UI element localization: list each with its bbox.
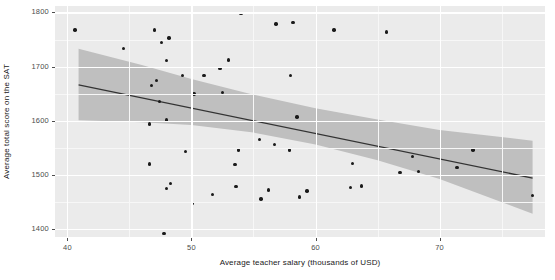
data-point [160, 41, 163, 44]
y-tick-mark [52, 67, 55, 68]
data-point [259, 197, 262, 200]
y-tick-mark [52, 229, 55, 230]
data-point [73, 28, 76, 31]
x-axis-title: Average teacher salary (thousands of USD… [55, 258, 545, 267]
gridline-major-y [55, 67, 545, 68]
sat-salary-scatter-plot: 14001500160017001800 40506070 Average to… [0, 0, 555, 280]
data-point [295, 115, 298, 118]
x-tick-label: 70 [435, 243, 444, 252]
plot-panel [55, 6, 545, 237]
data-point [289, 74, 292, 77]
x-tick-mark [191, 238, 192, 241]
x-tick-mark [316, 238, 317, 241]
y-tick-label: 1500 [32, 170, 50, 179]
gridline-major-x [67, 6, 68, 237]
data-point [148, 122, 151, 125]
data-point [291, 21, 294, 24]
data-point [153, 28, 156, 31]
gridline-major-y [55, 121, 545, 122]
data-point [181, 74, 184, 77]
y-tick-mark [52, 175, 55, 176]
data-point [349, 186, 352, 189]
data-point [267, 188, 270, 191]
data-point [227, 58, 230, 61]
data-point [148, 162, 151, 165]
data-point [211, 193, 214, 196]
data-point [385, 30, 388, 33]
gridline-major-y [55, 175, 545, 176]
data-point [274, 22, 277, 25]
data-point [332, 28, 335, 31]
gridline-major-x [440, 6, 441, 237]
data-point [233, 163, 236, 166]
data-point [305, 189, 308, 192]
y-tick-mark [52, 121, 55, 122]
data-point [298, 195, 301, 198]
x-tick-label: 40 [63, 243, 72, 252]
data-point [360, 184, 363, 187]
data-point [531, 194, 534, 197]
data-point [158, 100, 161, 103]
data-point [184, 150, 187, 153]
y-tick-mark [52, 12, 55, 13]
x-tick-label: 60 [311, 243, 320, 252]
x-tick-mark [67, 238, 68, 241]
gridline-major-y [55, 229, 545, 230]
data-point [150, 84, 153, 87]
data-point [351, 162, 354, 165]
data-point [455, 166, 458, 169]
gridline-major-y [55, 12, 545, 13]
data-point [258, 138, 261, 141]
y-tick-label: 1400 [32, 224, 50, 233]
data-point [165, 187, 168, 190]
data-point [162, 232, 165, 235]
y-tick-label: 1700 [32, 62, 50, 71]
y-tick-label: 1600 [32, 116, 50, 125]
x-tick-label: 50 [187, 243, 196, 252]
data-point [202, 74, 205, 77]
y-axis-title: Average total score on the SAT [2, 6, 14, 237]
gridline-major-x [316, 6, 317, 237]
data-point [417, 170, 420, 173]
data-point [165, 59, 168, 62]
data-point [169, 182, 172, 185]
data-point [122, 47, 125, 50]
data-point [155, 79, 158, 82]
x-tick-mark [440, 238, 441, 241]
data-point [234, 185, 237, 188]
data-point [273, 143, 276, 146]
gridline-major-x [191, 6, 192, 237]
y-tick-label: 1800 [32, 7, 50, 16]
data-point [411, 155, 414, 158]
